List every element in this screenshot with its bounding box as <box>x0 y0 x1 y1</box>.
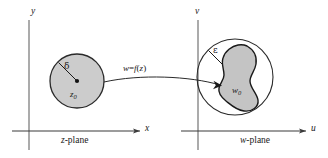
mapping-label-close: ) <box>143 63 146 73</box>
z-plane-caption-suffix: -plane <box>65 135 89 145</box>
figure-canvas <box>0 0 328 158</box>
y-axis-label: y <box>31 7 35 17</box>
z-plane-delta-disc <box>50 54 104 108</box>
complex-mapping-figure: y x δ z0 z-plane w=f(z) v u ε w0 w-plane <box>0 0 328 158</box>
mapping-arrow <box>104 77 222 89</box>
w-plane-caption-suffix: -plane <box>246 135 270 145</box>
mapping-arrow-curve <box>104 77 220 85</box>
mapping-label: w=f(z) <box>123 64 146 73</box>
z-plane-caption: z-plane <box>61 136 88 146</box>
z0-center-dot <box>75 79 79 83</box>
z0-label-subscript: 0 <box>74 93 77 100</box>
v-axis-label: v <box>195 7 199 17</box>
w0-label: w0 <box>232 80 241 96</box>
epsilon-label: ε <box>213 46 218 55</box>
u-axis-label: u <box>311 124 316 134</box>
delta-label: δ <box>64 62 69 71</box>
z0-label: z0 <box>70 84 77 100</box>
w-plane-image-blob <box>219 45 258 111</box>
x-axis-label: x <box>145 124 149 134</box>
z0-label-base: z <box>70 89 74 99</box>
w-plane-caption: w-plane <box>240 136 270 146</box>
w0-label-subscript: 0 <box>238 89 241 96</box>
image-region-outline <box>219 45 258 111</box>
